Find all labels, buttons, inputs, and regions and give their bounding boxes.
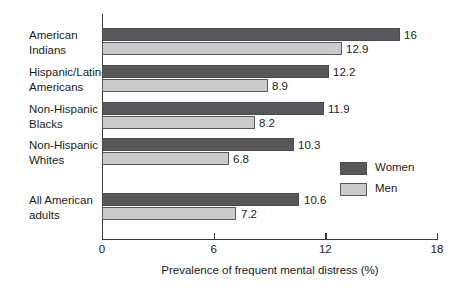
x-tick-12 <box>325 233 326 240</box>
legend-swatch-women-icon <box>340 162 367 175</box>
bar-men-american-indians <box>102 42 342 55</box>
plot-area: 0 6 12 18 American Indians 16 12.9 Hispa… <box>0 0 458 291</box>
x-axis-line <box>102 239 438 240</box>
bar-value-men-hispanic-latino-americans: 8.9 <box>272 80 288 92</box>
bar-men-hispanic-latino-americans <box>102 79 268 92</box>
bar-value-men-non-hispanic-blacks: 8.2 <box>259 117 275 129</box>
bar-value-women-american-indians: 16 <box>404 29 417 41</box>
category-label-non-hispanic-whites: Non-Hispanic Whites <box>29 138 98 167</box>
bar-women-all-american-adults <box>102 193 299 206</box>
x-tick-18 <box>437 233 438 240</box>
bar-value-women-non-hispanic-whites: 10.3 <box>298 139 320 151</box>
bar-women-non-hispanic-blacks <box>102 102 324 115</box>
category-label-non-hispanic-blacks: Non-Hispanic Blacks <box>29 102 98 131</box>
x-tick-label-18: 18 <box>431 243 444 255</box>
bar-value-men-non-hispanic-whites: 6.8 <box>233 153 249 165</box>
legend-label-men: Men <box>375 182 397 194</box>
x-tick-label-12: 12 <box>319 243 332 255</box>
x-tick-6 <box>214 233 215 240</box>
legend-label-women: Women <box>375 161 414 173</box>
bar-men-non-hispanic-whites <box>102 152 229 165</box>
bar-value-men-all-american-adults: 7.2 <box>241 208 257 220</box>
bar-value-women-all-american-adults: 10.6 <box>304 194 326 206</box>
x-axis-title: Prevalence of frequent mental distress (… <box>102 264 438 276</box>
bar-men-non-hispanic-blacks <box>102 116 255 129</box>
bar-value-women-non-hispanic-blacks: 11.9 <box>328 103 350 115</box>
bar-value-men-american-indians: 12.9 <box>346 43 368 55</box>
bar-men-all-american-adults <box>102 207 236 220</box>
category-label-american-indians: American Indians <box>29 28 78 57</box>
x-tick-0 <box>102 233 103 240</box>
bar-value-women-hispanic-latino-americans: 12.2 <box>333 66 355 78</box>
bar-women-american-indians <box>102 28 400 41</box>
x-tick-label-6: 6 <box>210 243 216 255</box>
bar-women-non-hispanic-whites <box>102 138 294 151</box>
legend-swatch-men-icon <box>340 183 367 196</box>
bar-women-hispanic-latino-americans <box>102 65 329 78</box>
category-label-all-american-adults: All American adults <box>29 193 93 222</box>
chart-figure: 0 6 12 18 American Indians 16 12.9 Hispa… <box>0 0 458 291</box>
category-label-hispanic-latino-americans: Hispanic/Latino Americans <box>29 65 108 94</box>
x-tick-label-0: 0 <box>99 243 105 255</box>
